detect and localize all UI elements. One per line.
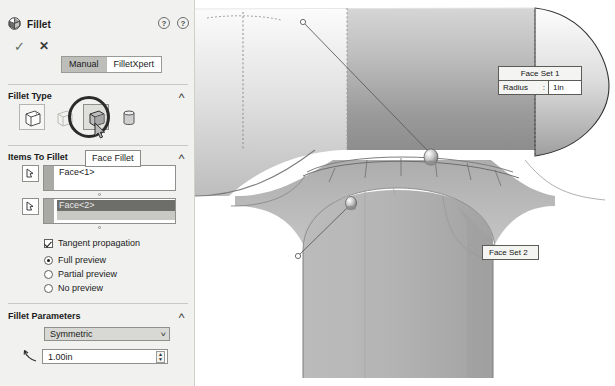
mode-tabs: Manual FilletXpert [61, 56, 162, 73]
fillet-type-full-round[interactable] [115, 104, 141, 130]
tangent-propagation-checkbox[interactable] [44, 239, 53, 248]
partial-preview-radio[interactable] [44, 270, 53, 279]
group-fillet-parameters[interactable]: Fillet Parameters ˄ [8, 308, 188, 323]
help-glyph: ? [181, 19, 186, 28]
divider-items [8, 145, 188, 146]
face-set-2-select-button[interactable] [22, 198, 39, 215]
full-preview-label: Full preview [58, 255, 106, 265]
callout-1-radius-label: Radius [503, 83, 528, 92]
face-set-2-listbox[interactable]: Face<2> [43, 198, 176, 224]
divider-params [8, 303, 188, 304]
chevron-up-icon[interactable]: ˄ [178, 91, 185, 101]
stepper-down-icon[interactable]: ▼ [158, 357, 163, 362]
model-3d [195, 0, 615, 386]
face-set-1-select-button[interactable] [22, 165, 39, 182]
group-fillet-type-label: Fillet Type [8, 91, 52, 101]
face-set-2-resize-grip[interactable] [97, 225, 103, 229]
chevron-up-icon-params[interactable]: ˄ [178, 311, 185, 321]
group-fillet-parameters-label: Fillet Parameters [8, 311, 81, 321]
fillet-profile-dropdown[interactable]: Symmetric ˅ [44, 327, 170, 341]
help-advanced-glyph: ? [162, 19, 167, 28]
solidworks-fillet-screen: Face Set 1 Radius : 1in Face Set 2 [0, 0, 615, 386]
no-preview-row[interactable]: No preview [44, 281, 140, 295]
face-set-2-group: Face<2> [22, 198, 176, 224]
face-set-1-resize-grip[interactable] [97, 192, 103, 196]
face-set-2-empty-row[interactable] [57, 211, 175, 220]
help-icon[interactable]: ? [177, 17, 189, 29]
no-preview-label: No preview [58, 283, 103, 293]
callout-face-set-2[interactable]: Face Set 2 [482, 245, 539, 260]
face-set-2-stripe [44, 199, 54, 223]
radius-input[interactable]: 1.00in ▲ ▼ [42, 349, 168, 364]
partial-preview-row[interactable]: Partial preview [44, 267, 140, 281]
callout-1-radius-row: Radius : [499, 81, 548, 94]
tab-filletxpert[interactable]: FilletXpert [107, 57, 162, 72]
full-preview-row[interactable]: Full preview [44, 253, 140, 267]
fillet-icon [8, 17, 21, 32]
callout-face-set-1[interactable]: Face Set 1 Radius : 1in [498, 66, 582, 95]
preview-options: Tangent propagation Full preview Partial… [44, 236, 140, 295]
cancel-button[interactable]: ✕ [39, 40, 49, 53]
group-fillet-type[interactable]: Fillet Type ˄ [8, 88, 188, 103]
tangent-propagation-label: Tangent propagation [58, 238, 140, 248]
tab-manual[interactable]: Manual [62, 57, 107, 72]
radius-value: 1.00in [48, 352, 73, 362]
radius-row: 1.00in ▲ ▼ [22, 348, 168, 365]
full-preview-radio[interactable] [44, 256, 53, 265]
callout-1-radius-value[interactable]: 1in [548, 81, 581, 94]
callout-1-radius-colon: : [543, 83, 545, 92]
fillet-type-variable-size[interactable] [51, 104, 77, 130]
confirm-row: ✓ ✕ [14, 40, 49, 53]
no-preview-radio[interactable] [44, 284, 53, 293]
callout-2-title: Face Set 2 [489, 248, 528, 257]
chevron-down-icon[interactable]: ˅ [161, 330, 167, 339]
divider-top [8, 84, 188, 85]
face-set-1-group: Face<1> [22, 165, 176, 191]
page-title: Fillet [27, 19, 51, 30]
face-set-2-item[interactable]: Face<2> [57, 200, 175, 211]
partial-preview-label: Partial preview [58, 269, 117, 279]
property-manager-panel: Fillet ? ? ✓ ✕ Manual FilletXpert Fillet… [0, 0, 195, 386]
panel-header-icons: ? ? [158, 17, 189, 29]
ok-button[interactable]: ✓ [14, 40, 25, 53]
fillet-type-constant-size[interactable] [19, 104, 45, 130]
graphics-viewport[interactable]: Face Set 1 Radius : 1in Face Set 2 [195, 0, 615, 386]
callout-1-title: Face Set 1 [499, 67, 581, 81]
help-advanced-icon[interactable]: ? [158, 17, 170, 29]
group-items-to-fillet-label: Items To Fillet [8, 152, 68, 162]
face-fillet-tooltip: Face Fillet [85, 150, 141, 167]
face-set-1-listbox[interactable]: Face<1> [43, 165, 176, 191]
face-set-1-item[interactable]: Face<1> [57, 167, 175, 178]
mouse-cursor-icon [94, 122, 107, 142]
tangent-propagation-row[interactable]: Tangent propagation [44, 236, 140, 250]
chevron-up-icon-items[interactable]: ˄ [178, 152, 185, 162]
fillet-type-options [19, 104, 141, 130]
radius-icon [22, 348, 38, 365]
face-set-1-stripe [44, 166, 54, 190]
fillet-profile-value: Symmetric [50, 329, 93, 339]
radius-stepper[interactable]: ▲ ▼ [156, 351, 165, 363]
